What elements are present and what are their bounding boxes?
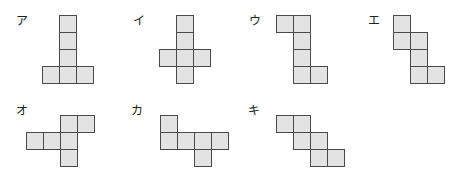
net-square — [176, 32, 194, 50]
net-square — [211, 132, 229, 150]
shape-label: エ — [368, 14, 380, 28]
net-square — [410, 32, 428, 50]
net-square — [176, 66, 194, 84]
net-square — [59, 32, 77, 50]
shape-label: オ — [16, 104, 28, 118]
net-square — [410, 49, 428, 67]
net-square — [176, 49, 194, 67]
shape-label: ウ — [249, 14, 261, 28]
net-square — [293, 49, 311, 67]
net-square — [177, 132, 195, 150]
net-square — [42, 66, 60, 84]
net-square — [193, 49, 211, 67]
net-square — [59, 49, 77, 67]
net-square — [310, 149, 328, 167]
net-square — [60, 132, 78, 150]
net-square — [43, 132, 61, 150]
net-square — [60, 115, 78, 133]
net-square — [160, 115, 178, 133]
net-square — [59, 66, 77, 84]
net-square — [310, 132, 328, 150]
shape-label: イ — [133, 14, 145, 28]
net-square — [293, 132, 311, 150]
net-square — [26, 132, 44, 150]
net-square — [194, 132, 212, 150]
net-square — [293, 32, 311, 50]
net-square — [293, 115, 311, 133]
net-square — [160, 132, 178, 150]
net-square — [194, 149, 212, 167]
net-square — [76, 66, 94, 84]
net-square — [159, 49, 177, 67]
net-square — [60, 149, 78, 167]
net-square — [293, 15, 311, 33]
net-square — [310, 66, 328, 84]
net-square — [327, 149, 345, 167]
net-square — [276, 15, 294, 33]
net-square — [293, 66, 311, 84]
net-square — [427, 66, 445, 84]
net-square — [410, 66, 428, 84]
shape-label: ア — [16, 14, 28, 28]
net-square — [276, 115, 294, 133]
net-square — [393, 15, 411, 33]
shape-label: カ — [131, 104, 143, 118]
net-square — [59, 15, 77, 33]
shape-label: キ — [248, 104, 260, 118]
net-square — [77, 115, 95, 133]
net-square — [176, 15, 194, 33]
net-square — [393, 32, 411, 50]
